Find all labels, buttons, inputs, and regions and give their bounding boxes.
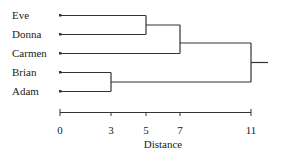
x-axis	[60, 109, 251, 116]
tick-label-0: 0	[57, 124, 63, 136]
tick-label-5: 5	[143, 124, 149, 136]
tick-label-3: 3	[108, 124, 114, 136]
tick-label-11: 11	[246, 124, 257, 136]
tick-label-7: 7	[177, 124, 183, 136]
merge-eve-donna	[60, 16, 146, 35]
merge-brian-adam	[60, 73, 111, 92]
x-axis-title: Distance	[144, 138, 182, 150]
dendrogram-plot	[0, 0, 284, 162]
merge-root	[111, 43, 268, 82]
merge-ed-carmen	[60, 25, 180, 54]
